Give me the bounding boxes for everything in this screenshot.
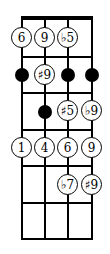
fretboard-diagram: 6 9 ♭5 ♯9 ♯5 ♭9 1 4 6 9 ♭7 ♯9 <box>0 0 110 254</box>
note-marker: ♯5 <box>57 100 78 121</box>
root-dot <box>85 68 99 82</box>
note-marker: 4 <box>34 137 55 158</box>
nut <box>21 16 93 20</box>
fret-5 <box>21 202 93 204</box>
fret-4 <box>21 165 93 167</box>
note-marker: 1 <box>11 137 32 158</box>
fret-6 <box>21 238 93 240</box>
fret-2 <box>21 92 93 94</box>
root-dot <box>61 68 75 82</box>
note-marker: 9 <box>34 27 55 48</box>
note-marker: 9 <box>81 137 102 158</box>
root-dot <box>15 68 29 82</box>
note-marker: ♭5 <box>57 27 78 48</box>
note-marker: ♭7 <box>57 174 78 195</box>
note-marker: 6 <box>57 137 78 158</box>
note-marker: ♯9 <box>81 174 102 195</box>
note-marker: ♯9 <box>34 64 55 85</box>
fret-1 <box>21 56 93 58</box>
note-marker: 6 <box>11 27 32 48</box>
note-marker: ♭9 <box>81 100 102 121</box>
fret-3 <box>21 129 93 131</box>
root-dot <box>38 105 52 119</box>
